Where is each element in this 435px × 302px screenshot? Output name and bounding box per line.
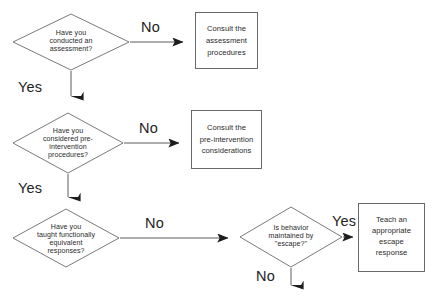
decision-preintervention[interactable] <box>13 113 124 174</box>
edge-label-assessment-yes: Yes <box>18 79 42 95</box>
action-assessment[interactable] <box>195 12 258 69</box>
decision-functional-responses[interactable] <box>13 209 120 268</box>
edge-label-preintervention-no: No <box>139 120 158 136</box>
decision-assessment[interactable] <box>13 14 130 71</box>
action-escape[interactable] <box>358 203 425 272</box>
decision-escape[interactable] <box>240 207 343 268</box>
edge-label-escape-no: No <box>256 268 275 284</box>
edge-label-preintervention-yes: Yes <box>18 180 42 196</box>
action-preintervention[interactable] <box>191 110 262 169</box>
edge-label-functional-no: No <box>145 215 164 231</box>
flowchart-canvas: Have you conducted an assessment? Consul… <box>0 0 435 302</box>
edge-label-escape-yes: Yes <box>332 213 356 229</box>
edge-label-assessment-no: No <box>141 19 160 35</box>
